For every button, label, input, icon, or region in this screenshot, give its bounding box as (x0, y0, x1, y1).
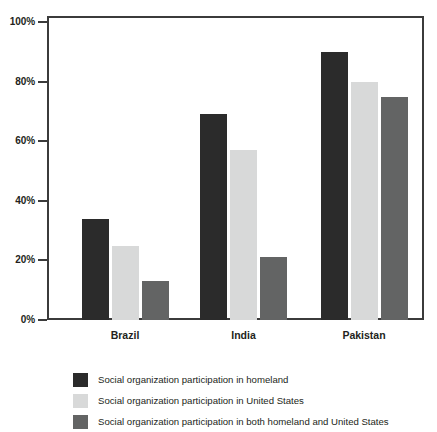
bar-india-series-2 (230, 150, 257, 320)
bar-pakistan-series-2 (351, 82, 378, 320)
y-axis-tick-mark-40 (38, 200, 47, 202)
legend-swatch-both (73, 415, 88, 429)
bar-brazil-series-2 (112, 246, 139, 321)
legend-label-homeland: Social organization participation in hom… (98, 374, 288, 386)
y-axis-tick-label-40: 40% (15, 196, 38, 206)
legend-item-united-states: Social organization participation in Uni… (73, 390, 433, 411)
chart-legend: Social organization participation in hom… (73, 369, 433, 432)
x-axis-label-india: India (194, 328, 294, 342)
x-axis-label-pakistan: Pakistan (314, 328, 414, 342)
y-axis-tick-mark-60 (38, 140, 47, 142)
y-axis-tick-mark-80 (38, 81, 47, 83)
y-axis-tick-mark-0 (38, 319, 47, 321)
legend-item-both: Social organization participation in bot… (73, 411, 433, 432)
bar-chart-figure: 0% 20% 40% 60% 80% 100% BrazilIndiaPakis… (0, 0, 437, 432)
y-axis-tick-label-80: 80% (15, 77, 38, 87)
bar-brazil-series-1 (82, 219, 109, 320)
legend-label-united-states: Social organization participation in Uni… (98, 395, 304, 407)
legend-item-homeland: Social organization participation in hom… (73, 369, 433, 390)
y-axis: 0% 20% 40% 60% 80% 100% (0, 0, 47, 432)
bar-pakistan-series-1 (321, 52, 348, 320)
x-axis-label-brazil: Brazil (75, 328, 175, 342)
y-axis-tick-label-20: 20% (15, 255, 38, 265)
bars-layer (47, 16, 424, 320)
legend-swatch-united-states (73, 394, 88, 408)
legend-swatch-homeland (73, 373, 88, 387)
y-axis-tick-mark-100 (38, 21, 47, 23)
legend-label-both: Social organization participation in bot… (98, 416, 389, 428)
bar-india-series-1 (200, 114, 227, 320)
bar-india-series-3 (260, 257, 287, 320)
y-axis-tick-label-100: 100% (10, 17, 38, 27)
y-axis-tick-mark-20 (38, 259, 47, 261)
bar-pakistan-series-3 (381, 97, 408, 321)
bar-brazil-series-3 (142, 281, 169, 320)
y-axis-tick-label-0: 0% (21, 315, 38, 325)
x-axis-category-labels: BrazilIndiaPakistan (47, 328, 424, 348)
y-axis-tick-label-60: 60% (15, 136, 38, 146)
